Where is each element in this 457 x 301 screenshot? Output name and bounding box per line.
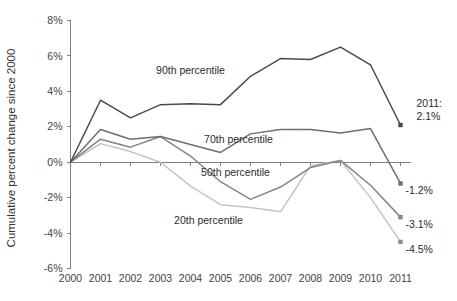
y-tick-label: -2%	[44, 191, 63, 203]
x-tick-label: 2010	[359, 272, 383, 284]
y-tick-label: 4%	[47, 85, 62, 97]
chart-container: Cumulative percent change since 2000 8%6…	[0, 0, 457, 301]
end-label-value-50th-percentile: -3.1%	[406, 218, 433, 230]
end-label-value-20th-percentile: -4.5%	[406, 243, 433, 255]
y-axis-title-text: Cumulative percent change since 2000	[5, 49, 17, 248]
series-endpoint-marker-90th-percentile	[398, 123, 402, 127]
series-annotation-label: 50th percentile	[201, 166, 270, 178]
y-axis-title: Cumulative percent change since 2000	[5, 49, 17, 248]
series-endpoint-marker-20th-percentile	[398, 240, 402, 244]
x-tick-label: 2001	[89, 272, 113, 284]
x-tick-label: 2008	[299, 272, 323, 284]
x-tick-label: 2007	[269, 272, 293, 284]
series-endpoints	[398, 123, 402, 244]
x-tick-label: 2002	[119, 272, 143, 284]
x-tick-label: 2000	[59, 272, 83, 284]
line-chart: Cumulative percent change since 2000 8%6…	[0, 0, 457, 301]
y-tick-label: 2%	[47, 120, 62, 132]
series-endpoint-marker-50th-percentile	[398, 215, 402, 219]
series-end-labels: 2011:2.1%-1.2%-3.1%-4.5%	[406, 97, 443, 255]
x-tick-label: 2006	[239, 272, 263, 284]
end-label-year-90th: 2011:	[417, 97, 443, 109]
y-tick-label: 0%	[47, 156, 62, 168]
series-annotation-label: 20th percentile	[174, 214, 243, 226]
x-tick-label: 2003	[149, 272, 173, 284]
x-tick-label: 2009	[329, 272, 353, 284]
series-annotation-label: 90th percentile	[156, 64, 225, 76]
y-tick-label: 8%	[47, 14, 62, 26]
x-tick-label: 2011	[389, 272, 412, 284]
y-tick-label: -4%	[44, 227, 63, 239]
x-tick-label: 2005	[209, 272, 233, 284]
y-tick-label: 6%	[47, 50, 62, 62]
x-tick-label: 2004	[179, 272, 203, 284]
end-label-value-70th-percentile: -1.2%	[406, 184, 433, 196]
end-label-value-90th: 2.1%	[417, 110, 441, 122]
series-endpoint-marker-70th-percentile	[398, 181, 402, 185]
series-annotation-label: 70th percentile	[204, 133, 273, 145]
y-axis-ticks: 8%6%4%2%0%-2%-4%-6%	[44, 14, 71, 274]
series-line-20th-percentile	[71, 144, 401, 242]
